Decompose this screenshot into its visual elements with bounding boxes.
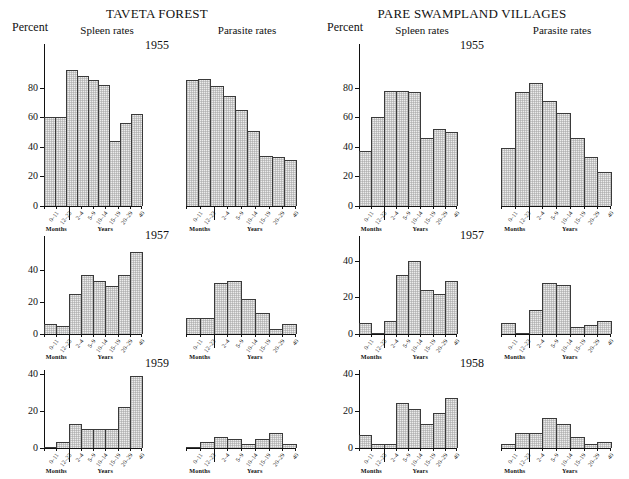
- x-axis-tick: [515, 206, 516, 209]
- row-year-label: 1957: [315, 228, 629, 243]
- x-axis-tick: [44, 206, 45, 209]
- x-axis-tick: [200, 334, 201, 337]
- x-axis-tick-label: 15–19: [573, 338, 587, 354]
- y-axis-tick-label: 0: [33, 443, 38, 453]
- x-axis-tick: [584, 206, 585, 209]
- x-axis-tick: [81, 448, 82, 451]
- y-axis-tick: [355, 117, 359, 118]
- x-axis-tick-label: 2–4: [221, 452, 231, 463]
- x-axis-tick-label: 12–23: [203, 210, 217, 226]
- histogram-bar: [515, 333, 530, 334]
- x-axis-tick: [282, 448, 283, 451]
- histogram-bar: [408, 409, 421, 448]
- histogram-bar: [81, 429, 94, 448]
- x-axis-tick-label: 10–14: [559, 452, 573, 468]
- x-axis-tick: [584, 448, 585, 451]
- x-axis-tick: [456, 334, 457, 337]
- histogram-bar: [408, 261, 421, 334]
- x-axis-tick: [56, 334, 57, 337]
- y-axis-tick-label: 60: [343, 112, 353, 122]
- x-axis-tick: [420, 448, 421, 451]
- plot-area: 0–1112–232–45–910–1415–1920–2940MonthsYe…: [186, 58, 296, 206]
- x-axis-tick: [130, 334, 131, 337]
- x-axis-tick-label: 15–19: [258, 338, 272, 354]
- x-axis-tick: [556, 206, 557, 209]
- chart-row-1958: 1958 020400–1112–232–45–910–1415–1920–29…: [315, 356, 629, 479]
- x-axis-tick-label: 0–11: [191, 210, 203, 223]
- x-axis-tick: [282, 206, 283, 209]
- x-axis-tick: [295, 206, 296, 209]
- x-axis-tick: [515, 448, 516, 451]
- x-axis-tick: [44, 448, 45, 451]
- x-axis-tick-label: 10–14: [244, 338, 258, 354]
- y-axis-line: [44, 236, 45, 334]
- x-axis-tick: [456, 448, 457, 451]
- x-axis-tick: [359, 448, 360, 451]
- plot-area: 0204060800–1112–232–45–910–1415–1920–294…: [44, 58, 142, 206]
- row-year-label: 1958: [315, 356, 629, 371]
- x-axis-tick-label: 0–11: [506, 338, 518, 351]
- histogram-bar: [384, 321, 397, 334]
- x-axis-tick: [105, 334, 106, 337]
- x-axis-tick: [542, 334, 543, 337]
- panel-spleen-1957: 020400–1112–232–45–910–1415–1920–2940Mon…: [44, 246, 142, 360]
- x-axis-tick-label: 5–9: [549, 338, 559, 349]
- x-axis-tick-label: 0–11: [506, 210, 518, 223]
- plot-area: 0–1112–232–45–910–1415–1920–2940MonthsYe…: [501, 246, 611, 334]
- x-axis-tick: [118, 448, 119, 451]
- figure-root: TAVETA FOREST Percent Spleen rates Paras…: [0, 0, 629, 479]
- histogram-bar: [200, 318, 215, 334]
- x-axis-tick: [56, 448, 57, 451]
- histogram-bar: [584, 444, 599, 448]
- y-axis-tick-label: 80: [28, 83, 38, 93]
- histogram-bar: [396, 275, 409, 334]
- plot-area: 0–1112–232–45–910–1415–1920–2940MonthsYe…: [501, 370, 611, 448]
- histogram-bar: [359, 151, 372, 206]
- x-axis-tick: [269, 206, 270, 209]
- histogram-bar: [371, 444, 384, 448]
- x-axis-tick-label: 15–19: [107, 452, 121, 468]
- histogram-bar: [433, 413, 446, 448]
- histogram-bar: [227, 281, 242, 334]
- axis-group-separator: [529, 336, 530, 348]
- row-year-label: 1959: [0, 356, 314, 371]
- x-axis-tick: [255, 448, 256, 451]
- histogram-bar: [269, 329, 284, 334]
- x-axis-tick: [556, 334, 557, 337]
- subtitle-spleen-rates: Spleen rates: [367, 24, 477, 36]
- x-axis-tick: [200, 448, 201, 451]
- x-axis-tick-label: 20–29: [587, 452, 601, 468]
- column-pare-swampland-villages: PARE SWAMPLAND VILLAGES Percent Spleen r…: [315, 0, 629, 479]
- x-axis-tick: [295, 448, 296, 451]
- y-axis-tick: [40, 374, 44, 375]
- x-axis-tick-label: 5–9: [234, 338, 244, 349]
- y-axis-title: Percent: [12, 20, 48, 35]
- x-axis-tick: [556, 448, 557, 451]
- x-axis-tick: [445, 448, 446, 451]
- x-axis-tick-label: 5–9: [234, 452, 244, 463]
- axis-group-label-months: Months: [44, 467, 69, 474]
- x-axis-tick: [93, 334, 94, 337]
- y-axis-tick: [355, 374, 359, 375]
- x-axis-tick-label: 40: [291, 338, 299, 346]
- histogram-bar: [56, 442, 69, 448]
- x-axis-tick-label: 0–11: [191, 338, 203, 351]
- x-axis-tick: [269, 448, 270, 451]
- panel-parasite-1958: 0–1112–232–45–910–1415–1920–2940MonthsYe…: [501, 370, 611, 474]
- histogram-bar: [529, 433, 544, 448]
- x-axis-tick: [371, 206, 372, 209]
- x-axis-tick: [420, 206, 421, 209]
- panel-parasite-1955: 0–1112–232–45–910–1415–1920–2940MonthsYe…: [186, 58, 296, 232]
- y-axis-tick-label: 0: [33, 329, 38, 339]
- panel-spleen-1955: 0204060800–1112–232–45–910–1415–1920–294…: [44, 58, 142, 232]
- x-axis-tick-label: 2–4: [221, 210, 231, 221]
- histogram-bar: [227, 439, 242, 448]
- x-axis-tick-label: 12–23: [518, 338, 532, 354]
- column-taveta-forest: TAVETA FOREST Percent Spleen rates Paras…: [0, 0, 314, 479]
- plot-area: 020400–1112–232–45–910–1415–1920–2940Mon…: [44, 246, 142, 334]
- y-axis-tick-label: 0: [33, 201, 38, 211]
- histogram-bar: [371, 117, 384, 206]
- x-axis-tick-label: 10–14: [410, 210, 424, 226]
- y-axis-tick-label: 20: [28, 297, 38, 307]
- x-axis-tick: [408, 206, 409, 209]
